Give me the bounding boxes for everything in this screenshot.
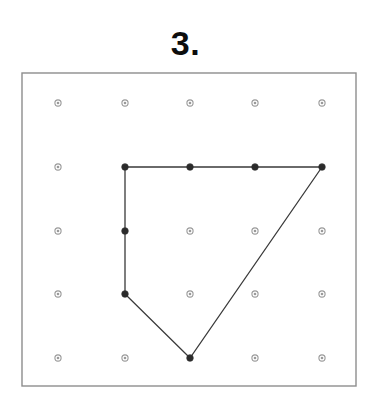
peg-center-2-3 — [189, 293, 192, 296]
peg-center-4-3 — [321, 293, 324, 296]
peg-center-3-4 — [254, 357, 257, 360]
geoboard-container — [0, 0, 371, 407]
peg-center-3-0 — [254, 102, 257, 105]
peg-center-3-3 — [254, 293, 257, 296]
highlighted-peg-top-left-vertex — [122, 164, 128, 170]
quadrilateral-shape — [125, 167, 322, 358]
highlighted-peg-top-edge-peg — [252, 164, 258, 170]
geoboard-svg — [0, 0, 371, 407]
peg-center-0-4 — [57, 357, 60, 360]
peg-center-1-0 — [124, 102, 127, 105]
peg-center-4-4 — [321, 357, 324, 360]
peg-center-0-3 — [57, 293, 60, 296]
peg-center-4-0 — [321, 102, 324, 105]
peg-center-2-0 — [189, 102, 192, 105]
peg-center-2-2 — [189, 230, 192, 233]
vertex-peg-group — [122, 164, 325, 361]
peg-center-0-2 — [57, 230, 60, 233]
peg-grid — [55, 100, 325, 361]
peg-center-0-1 — [57, 166, 60, 169]
highlighted-peg-top-right-vertex — [319, 164, 325, 170]
peg-center-0-0 — [57, 102, 60, 105]
highlighted-peg-bottom-vertex — [187, 355, 193, 361]
peg-center-1-4 — [124, 357, 127, 360]
worksheet-page: 3. — [0, 0, 371, 407]
highlighted-peg-lower-left-vertex — [122, 291, 128, 297]
peg-center-3-2 — [254, 230, 257, 233]
highlighted-peg-top-edge-peg — [187, 164, 193, 170]
highlighted-peg-left-edge-peg — [122, 228, 128, 234]
peg-center-4-2 — [321, 230, 324, 233]
